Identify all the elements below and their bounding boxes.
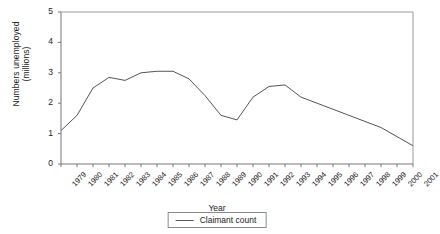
y-axis-title-line-1: Numbers unemployed [11,22,21,107]
axis-lines [61,12,413,164]
data-series-group [61,71,413,145]
legend-line-swatch [176,220,194,221]
y-axis-title: Numbers unemployed (millions) [11,0,31,129]
y-tick-label-4: 4 [37,36,53,46]
legend-label-claimant-count: Claimant count [200,215,257,225]
series-line-claimant-count [61,71,413,145]
y-tick-label-2: 2 [37,97,53,107]
chart-legend: Claimant count [168,212,267,228]
y-axis-title-line-2: (millions) [21,47,31,82]
y-tick-label-5: 5 [37,6,53,16]
y-tick-label-3: 3 [37,67,53,77]
y-tick-label-0: 0 [37,158,53,168]
y-tick-label-1: 1 [37,128,53,138]
